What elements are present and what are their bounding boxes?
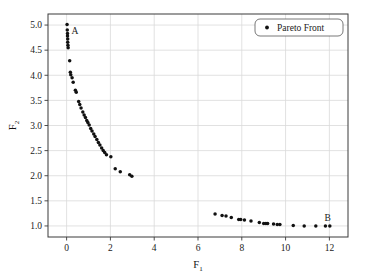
tick-label-x: 10	[281, 243, 291, 253]
tick-labels-y-axis: 1.01.52.02.53.03.54.04.55.0	[30, 20, 42, 231]
data-point	[84, 116, 88, 120]
tick-label-y: 2.5	[30, 146, 42, 156]
data-point	[90, 129, 94, 133]
data-point	[66, 37, 70, 41]
data-point	[278, 223, 282, 227]
data-point	[66, 34, 70, 38]
chart-background	[0, 0, 368, 275]
tick-label-y: 2.0	[30, 171, 42, 181]
tick-label-x: 4	[152, 243, 157, 253]
y-axis-title-subscript: 2	[13, 120, 21, 124]
data-point	[70, 76, 74, 80]
data-point	[78, 103, 82, 107]
x-axis-title-subscript: 1	[199, 265, 203, 273]
tick-label-y: 3.0	[30, 121, 42, 131]
data-point	[328, 224, 332, 228]
tick-label-x: 8	[239, 243, 244, 253]
tick-label-y: 3.5	[30, 96, 42, 106]
data-point	[220, 214, 224, 218]
tick-label-y: 4.5	[30, 45, 42, 55]
data-point	[130, 174, 134, 178]
annotation-label-b: B	[324, 213, 330, 223]
data-point	[95, 138, 99, 142]
data-point	[87, 123, 91, 127]
tick-label-y: 4.0	[30, 71, 42, 81]
data-point	[74, 91, 78, 95]
annotation-label-a: A	[71, 26, 78, 36]
data-point	[109, 155, 113, 159]
data-point	[249, 219, 253, 223]
data-point	[65, 23, 69, 27]
data-point	[239, 218, 243, 222]
legend-marker-icon	[265, 26, 269, 30]
data-point	[302, 224, 306, 228]
data-point	[81, 110, 85, 114]
tick-label-x: 2	[108, 243, 113, 253]
tick-label-y: 1.0	[30, 221, 42, 231]
data-point	[68, 59, 72, 63]
data-point	[292, 224, 296, 228]
data-point	[324, 224, 328, 228]
data-point	[66, 28, 70, 32]
pareto-front-chart: 024681012 1.01.52.02.53.03.54.04.55.0 AB…	[0, 0, 368, 275]
tick-label-x: 0	[64, 243, 69, 253]
data-point	[266, 222, 270, 226]
data-point	[71, 81, 75, 85]
data-point	[213, 212, 217, 216]
data-point	[77, 100, 81, 104]
tick-label-y: 5.0	[30, 20, 42, 30]
tick-label-y: 1.5	[30, 196, 42, 206]
data-point	[98, 143, 102, 147]
data-point	[69, 73, 73, 77]
data-point	[105, 153, 109, 157]
data-point	[66, 40, 70, 44]
data-point	[314, 224, 318, 228]
data-point	[272, 222, 276, 226]
chart-canvas: 024681012 1.01.52.02.53.03.54.04.55.0 AB…	[0, 0, 368, 275]
data-point	[93, 135, 97, 139]
data-point	[243, 218, 247, 222]
data-point	[113, 167, 117, 171]
data-point	[230, 216, 234, 220]
tick-label-x: 12	[325, 243, 335, 253]
data-point	[258, 221, 262, 225]
data-point	[119, 170, 123, 174]
data-point	[66, 46, 70, 50]
data-point	[224, 214, 228, 218]
legend: Pareto Front	[255, 19, 343, 36]
data-point	[79, 106, 83, 110]
legend-label: Pareto Front	[277, 23, 325, 33]
tick-label-x: 6	[196, 243, 201, 253]
